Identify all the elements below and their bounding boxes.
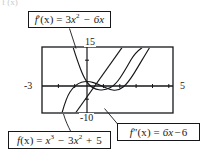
formula-label-f-double-prime: f″(x) = 6x−6 xyxy=(117,123,200,141)
f-exp1: 3 xyxy=(50,133,54,141)
axis-label-ymin: -10 xyxy=(79,113,94,123)
f-dprime-term1: 6x xyxy=(163,126,174,138)
f-term3: 5 xyxy=(96,134,102,146)
leader-line-f-prime xyxy=(70,29,77,49)
f-dprime-term2: 6 xyxy=(182,126,188,138)
axis-label-xmax: 5 xyxy=(179,81,186,91)
axis-label-ymax: 15 xyxy=(84,37,96,47)
f-exp2: 2 xyxy=(79,133,83,141)
f-prime-op1: − xyxy=(83,13,91,25)
f-prime-arg: (x) = xyxy=(40,13,62,25)
f-prime-exp1: 2 xyxy=(76,12,80,20)
f-prime-term2: 6x xyxy=(94,13,105,25)
leader-line-f xyxy=(64,114,71,131)
plot-frame xyxy=(42,47,173,113)
f-arg: (x) = xyxy=(20,134,42,146)
f-dprime-arg: (x) = xyxy=(138,126,160,138)
formula-label-f: f(x) = x3 − 3x2 + 5 xyxy=(8,131,111,149)
f-dprime-op1: − xyxy=(173,126,181,138)
calculus-graph-figure: f (x) xyxy=(0,0,210,161)
formula-label-f-prime: f′(x) = 3x2 − 6x xyxy=(28,11,111,28)
axis-label-xmin: -3 xyxy=(23,81,33,91)
f-op1: − xyxy=(57,134,65,146)
f-op2: + xyxy=(85,134,93,146)
